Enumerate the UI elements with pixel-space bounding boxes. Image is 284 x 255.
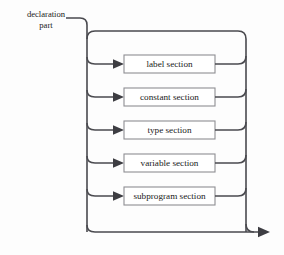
box-constant-section-text: constant section bbox=[140, 92, 199, 102]
branch-out-type-section bbox=[215, 122, 246, 130]
arrow-in-variable-section bbox=[113, 158, 124, 168]
box-subprogram-section-text: subprogram section bbox=[133, 191, 206, 201]
branch-in-variable-section bbox=[87, 156, 114, 163]
arrow-in-constant-section bbox=[113, 92, 124, 102]
branch-out-subprogram-section bbox=[215, 188, 246, 196]
exit-arrowhead bbox=[258, 227, 270, 237]
arrow-in-label-section bbox=[113, 59, 124, 69]
entry-line bbox=[66, 18, 87, 232]
box-type-section-text: type section bbox=[147, 125, 192, 135]
branch-out-variable-section bbox=[215, 155, 246, 163]
branch-out-label-section bbox=[215, 56, 246, 64]
right-rail-to-exit bbox=[246, 224, 254, 232]
top-bypass-rail bbox=[87, 31, 246, 50]
bottom-exit-rail bbox=[87, 225, 258, 232]
box-label-section-text: label section bbox=[146, 59, 193, 69]
branch-out-constant-section bbox=[215, 89, 246, 97]
branch-in-subprogram-section bbox=[87, 189, 114, 196]
branch-in-constant-section bbox=[87, 90, 114, 97]
railroad-diagram: declarationpart label section constant s… bbox=[0, 0, 284, 255]
branch-in-type-section bbox=[87, 123, 114, 130]
branch-in-label-section bbox=[87, 57, 114, 64]
box-variable-section-text: variable section bbox=[141, 158, 199, 168]
arrow-in-subprogram-section bbox=[113, 191, 124, 201]
arrow-in-type-section bbox=[113, 125, 124, 135]
railroad-svg: label section constant section type sect… bbox=[0, 0, 284, 255]
